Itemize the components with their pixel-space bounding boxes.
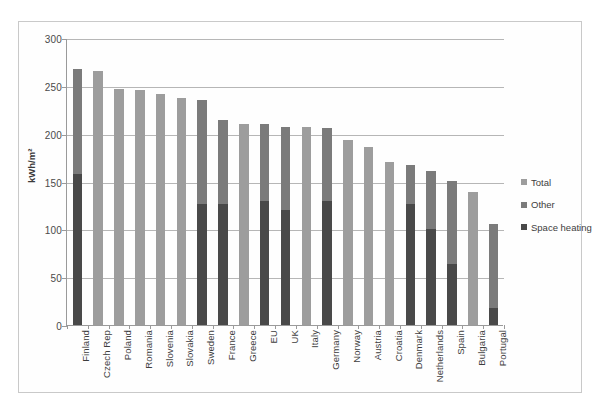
bar-poland[interactable]: [114, 89, 124, 325]
bar-slot: [400, 39, 421, 325]
bar-uk[interactable]: [281, 127, 291, 325]
legend-item-space-heating[interactable]: Space heating: [521, 222, 596, 232]
bar-sweden[interactable]: [197, 100, 207, 325]
bar-slovenia[interactable]: [156, 94, 166, 325]
bar-segment-total: [468, 192, 478, 325]
bar-segment-space-heating: [218, 204, 228, 325]
bar-segment-space-heating: [406, 204, 416, 325]
x-axis-tick: [254, 325, 255, 329]
bar-segment-space-heating: [447, 264, 457, 325]
bar-segment-space-heating: [73, 174, 83, 325]
bar-segment-other: [406, 165, 416, 203]
bar-slovakia[interactable]: [177, 98, 187, 325]
bar-slot: [213, 39, 234, 325]
bar-slot: [442, 39, 463, 325]
x-axis-tick: [317, 325, 318, 329]
bar-croatia[interactable]: [385, 162, 395, 325]
bar-segment-other: [489, 224, 499, 308]
x-axis-label-netherlands: Netherlands: [434, 330, 445, 382]
bar-slot: [150, 39, 171, 325]
bar-netherlands[interactable]: [426, 171, 436, 325]
x-axis-label-slovenia: Slovenia: [164, 330, 175, 367]
bar-austria[interactable]: [364, 147, 374, 325]
bar-finland[interactable]: [73, 69, 83, 325]
bar-eu[interactable]: [260, 124, 270, 325]
legend-item-total[interactable]: Total: [521, 177, 596, 187]
bar-portugal[interactable]: [489, 224, 499, 325]
x-axis-tick: [150, 325, 151, 329]
bar-france[interactable]: [218, 120, 228, 325]
bar-segment-total: [156, 94, 166, 325]
bar-italy[interactable]: [302, 127, 312, 325]
bar-segment-total: [364, 147, 374, 325]
y-axis-tick-label: 200: [45, 129, 62, 140]
x-axis-label-greece: Greece: [247, 330, 258, 362]
bar-segment-other: [260, 124, 270, 201]
legend-swatch-icon: [521, 179, 527, 185]
bar-segment-other: [281, 127, 291, 210]
y-axis-tick-label: 150: [45, 177, 62, 188]
x-axis-label-poland: Poland: [122, 330, 133, 360]
x-axis-label-norway: Norway: [351, 330, 362, 363]
bar-slot: [358, 39, 379, 325]
x-axis-label-bulgaria: Bulgaria: [476, 330, 487, 366]
bar-spain[interactable]: [447, 181, 457, 325]
y-axis-tick-labels: 050100150200250300: [38, 39, 62, 326]
bar-romania[interactable]: [135, 90, 145, 325]
y-axis-tick-label: 50: [50, 273, 62, 284]
bar-segment-total: [177, 98, 187, 325]
legend-item-other[interactable]: Other: [521, 200, 596, 210]
bar-slot: [462, 39, 483, 325]
bar-greece[interactable]: [239, 124, 249, 325]
bar-slot: [254, 39, 275, 325]
x-axis-tick: [109, 325, 110, 329]
y-axis-title: kWh/m²: [26, 149, 37, 183]
x-axis-tick: [338, 325, 339, 329]
x-axis-tick: [275, 325, 276, 329]
x-axis-tick: [88, 325, 89, 329]
x-axis-label-portugal: Portugal: [497, 330, 508, 366]
x-axis-label-eu: EU: [268, 330, 279, 343]
bar-slot: [338, 39, 359, 325]
legend-label: Space heating: [531, 222, 592, 233]
bar-series-group: [67, 39, 503, 325]
bar-norway[interactable]: [343, 140, 353, 325]
x-axis-label-sweden: Sweden: [205, 330, 216, 365]
x-axis-label-romania: Romania: [143, 330, 154, 369]
x-axis-tick: [483, 325, 484, 329]
chart-legend: TotalOtherSpace heating: [521, 177, 596, 245]
bar-segment-total: [302, 127, 312, 325]
bar-slot: [483, 39, 504, 325]
bar-slot: [67, 39, 88, 325]
y-axis-tick-label: 250: [45, 81, 62, 92]
legend-swatch-icon: [521, 202, 527, 208]
bar-slot: [296, 39, 317, 325]
bar-segment-space-heating: [322, 201, 332, 325]
x-axis-label-czech-rep: Czech Rep: [101, 330, 112, 378]
y-axis-tick-label: 100: [45, 225, 62, 236]
x-axis-tick: [129, 325, 130, 329]
x-axis-tick: [67, 325, 68, 329]
bar-germany[interactable]: [322, 128, 332, 325]
x-axis-label-france: France: [226, 330, 237, 360]
x-axis-label-denmark: Denmark: [413, 330, 424, 369]
x-axis-category-labels: FinlandCzech RepPolandRomaniaSloveniaSlo…: [66, 330, 503, 392]
bar-slot: [233, 39, 254, 325]
x-axis-tick: [421, 325, 422, 329]
bar-segment-total: [343, 140, 353, 325]
plot-area: [66, 39, 503, 326]
bar-denmark[interactable]: [406, 165, 416, 325]
bar-slot: [275, 39, 296, 325]
x-axis-tick: [233, 325, 234, 329]
x-axis-tick: [462, 325, 463, 329]
bar-segment-total: [114, 89, 124, 325]
bar-bulgaria[interactable]: [468, 192, 478, 325]
chart-figure: kWh/m² 050100150200250300 FinlandCzech R…: [0, 0, 600, 410]
bar-czech-rep[interactable]: [93, 71, 103, 325]
x-axis-label-uk: UK: [289, 330, 300, 343]
x-axis-tick: [358, 325, 359, 329]
legend-swatch-icon: [521, 224, 527, 230]
bar-slot: [317, 39, 338, 325]
x-axis-label-finland: Finland: [80, 330, 91, 362]
x-axis-label-germany: Germany: [330, 330, 341, 370]
